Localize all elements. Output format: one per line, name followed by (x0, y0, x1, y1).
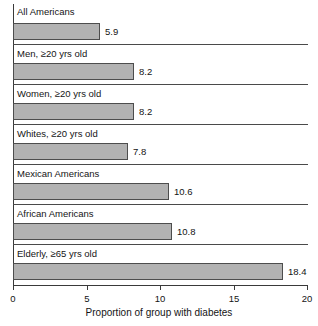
bar-value-label: 8.2 (139, 106, 152, 117)
category-label: Mexican Americans (17, 168, 99, 179)
x-tick-label: 0 (1, 293, 25, 304)
x-tick (13, 285, 14, 290)
x-tick (87, 285, 88, 290)
bar (13, 183, 169, 200)
group-separator (13, 204, 308, 205)
bar-value-label: 7.8 (133, 146, 146, 157)
group-separator (13, 44, 308, 45)
bar-group: Women, ≥20 yrs old8.2 (13, 84, 313, 124)
bar-group: All Americans5.9 (13, 4, 313, 44)
category-label: Elderly, ≥65 yrs old (17, 248, 97, 259)
bar (13, 63, 134, 80)
bar-chart: All Americans5.9Men, ≥20 yrs old8.2Women… (0, 0, 318, 326)
category-label: Whites, ≥20 yrs old (17, 128, 98, 139)
category-label: All Americans (17, 6, 75, 17)
bar-value-label: 10.6 (174, 186, 193, 197)
x-tick-label: 15 (222, 293, 246, 304)
bar-value-label: 18.4 (288, 266, 307, 277)
plot-area: All Americans5.9Men, ≥20 yrs old8.2Women… (13, 4, 313, 285)
bar (13, 103, 134, 120)
group-separator (13, 124, 308, 125)
x-tick-label: 10 (148, 293, 172, 304)
bar-value-label: 5.9 (105, 26, 118, 37)
bar-group: Whites, ≥20 yrs old7.8 (13, 124, 313, 164)
x-tick (160, 285, 161, 290)
group-separator (13, 164, 308, 165)
category-label: Women, ≥20 yrs old (17, 88, 101, 99)
group-separator (13, 244, 308, 245)
x-tick-label: 20 (295, 293, 318, 304)
bar (13, 223, 172, 240)
bar-group: African Americans10.8 (13, 204, 313, 244)
x-tick (234, 285, 235, 290)
bar (13, 23, 100, 40)
bar-group: Elderly, ≥65 yrs old18.4 (13, 244, 313, 284)
bar-group: Men, ≥20 yrs old8.2 (13, 44, 313, 84)
category-label: Men, ≥20 yrs old (17, 48, 87, 59)
bar-value-label: 10.8 (177, 226, 196, 237)
bar (13, 143, 128, 160)
bar-value-label: 8.2 (139, 66, 152, 77)
group-separator (13, 84, 308, 85)
category-label: African Americans (17, 208, 94, 219)
x-tick-label: 5 (75, 293, 99, 304)
bar (13, 263, 283, 280)
x-axis-title: Proportion of group with diabetes (0, 307, 318, 319)
x-tick (307, 285, 308, 290)
bar-group: Mexican Americans10.6 (13, 164, 313, 204)
